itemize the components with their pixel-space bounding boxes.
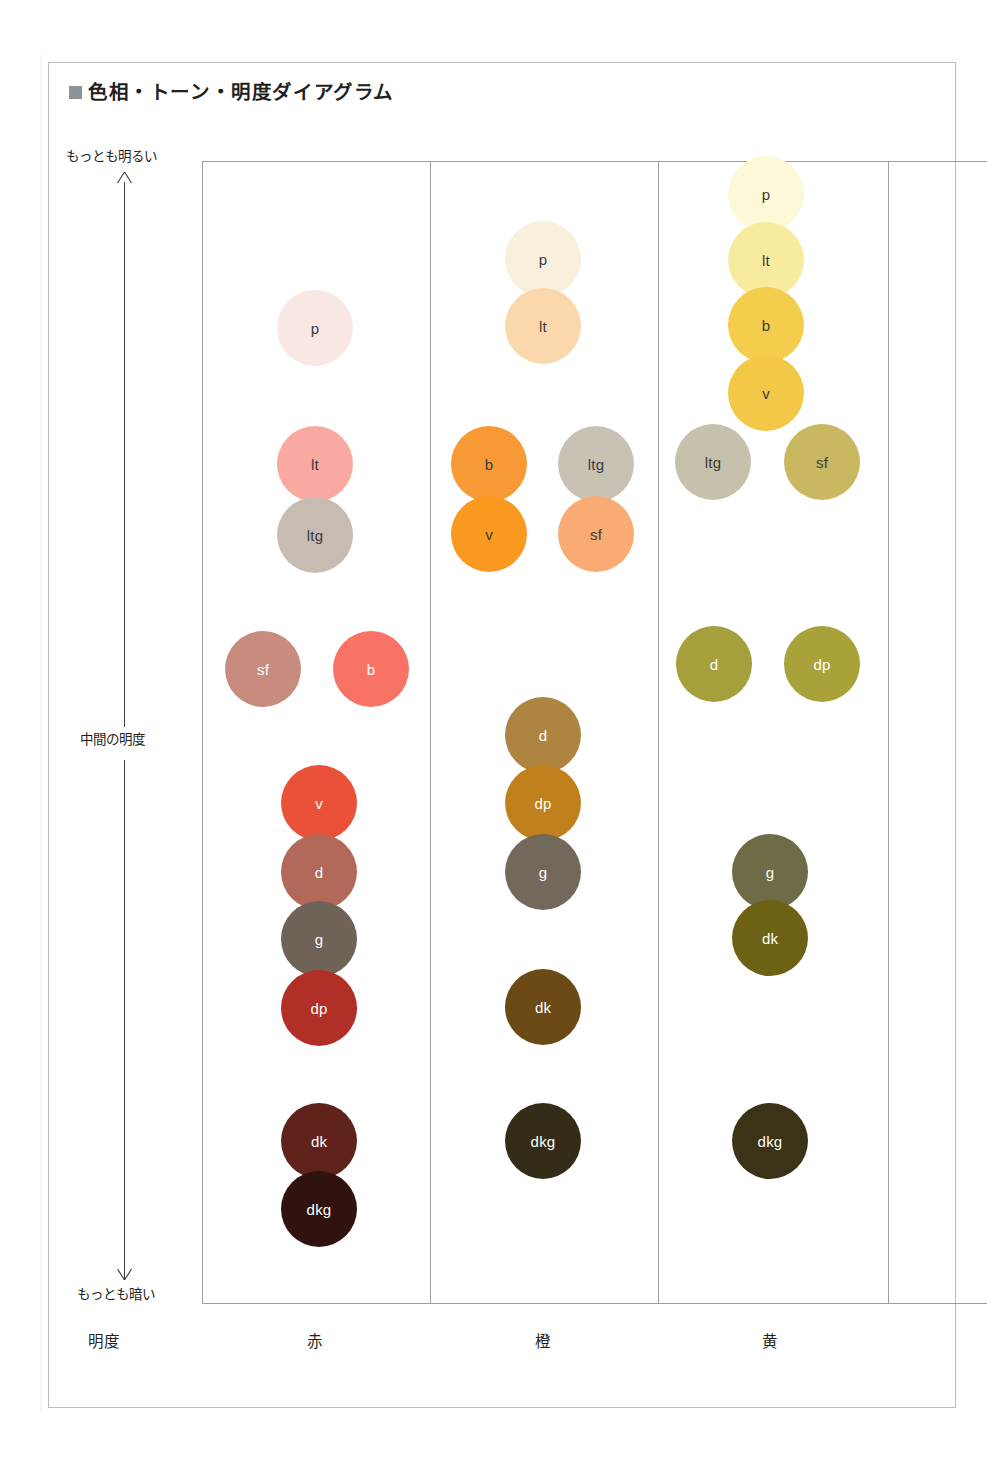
tone-dot-橙-sf: sf bbox=[558, 496, 634, 572]
tone-dot-黄-dk: dk bbox=[732, 900, 808, 976]
tone-dot-橙-d: d bbox=[505, 697, 581, 773]
tone-dot-黄-v: v bbox=[728, 355, 804, 431]
tone-dot-label: p bbox=[539, 251, 548, 266]
tone-dot-黄-g: g bbox=[732, 834, 808, 910]
tone-dot-黄-sf: sf bbox=[784, 424, 860, 500]
tone-dot-赤-sf: sf bbox=[225, 631, 301, 707]
tone-dot-label: lt bbox=[311, 456, 319, 471]
tone-dot-黄-d: d bbox=[676, 626, 752, 702]
tone-dot-橙-p: p bbox=[505, 221, 581, 297]
tone-dot-label: b bbox=[762, 317, 771, 332]
tone-dot-label: p bbox=[762, 186, 771, 201]
arrow-down-icon bbox=[116, 1268, 133, 1280]
axis-label-darkest: もっとも暗い bbox=[77, 1288, 155, 1302]
tone-dot-label: sf bbox=[590, 526, 602, 541]
tone-dot-橙-v: v bbox=[451, 496, 527, 572]
tone-dot-赤-g: g bbox=[281, 901, 357, 977]
tone-dot-label: dk bbox=[535, 999, 551, 1014]
filled-square-icon bbox=[69, 86, 82, 99]
tone-dot-label: ltg bbox=[588, 456, 604, 471]
tone-dot-label: g bbox=[315, 931, 324, 946]
axis-label-brightest: もっとも明るい bbox=[66, 150, 157, 164]
tone-dot-label: lt bbox=[539, 318, 547, 333]
tone-dot-label: lt bbox=[762, 252, 770, 267]
tone-dot-label: dkg bbox=[531, 1133, 556, 1148]
hue-column-label-橙: 橙 bbox=[503, 1334, 583, 1350]
tone-dot-黄-b: b bbox=[728, 287, 804, 363]
page-title-text: 色相・トーン・明度ダイアグラム bbox=[88, 83, 394, 103]
tone-dot-label: dkg bbox=[758, 1133, 783, 1148]
tone-dot-黄-dp: dp bbox=[784, 626, 860, 702]
tone-dot-label: d bbox=[315, 864, 324, 879]
tone-dot-橙-dk: dk bbox=[505, 969, 581, 1045]
tone-dot-label: dp bbox=[813, 656, 830, 671]
tone-dot-label: v bbox=[762, 385, 770, 400]
tone-dot-赤-b: b bbox=[333, 631, 409, 707]
tone-dot-label: dkg bbox=[307, 1201, 332, 1216]
tone-dot-label: dk bbox=[762, 930, 778, 945]
tone-dot-label: dk bbox=[311, 1133, 327, 1148]
axis-line-upper bbox=[124, 182, 125, 727]
page-title: 色相・トーン・明度ダイアグラム bbox=[69, 83, 394, 103]
column-divider-2 bbox=[658, 161, 659, 1304]
tone-dot-label: sf bbox=[816, 454, 828, 469]
tone-dot-赤-ltg: ltg bbox=[277, 497, 353, 573]
tone-dot-黄-ltg: ltg bbox=[675, 424, 751, 500]
tone-dot-赤-lt: lt bbox=[277, 426, 353, 502]
tone-dot-赤-p: p bbox=[277, 290, 353, 366]
tone-dot-label: g bbox=[539, 864, 548, 879]
tone-dot-赤-d: d bbox=[281, 834, 357, 910]
tone-dot-橙-dkg: dkg bbox=[505, 1103, 581, 1179]
tone-dot-橙-dp: dp bbox=[505, 765, 581, 841]
tone-dot-橙-g: g bbox=[505, 834, 581, 910]
axis-label-middle: 中間の明度 bbox=[80, 733, 145, 747]
tone-dot-label: dp bbox=[310, 1000, 327, 1015]
tone-dot-label: b bbox=[367, 661, 376, 676]
tone-dot-label: v bbox=[485, 526, 493, 541]
tone-dot-label: v bbox=[315, 795, 323, 810]
tone-dot-赤-dkg: dkg bbox=[281, 1171, 357, 1247]
tone-dot-label: g bbox=[766, 864, 775, 879]
tone-dot-label: b bbox=[485, 456, 494, 471]
tone-dot-label: p bbox=[311, 320, 320, 335]
tone-dot-赤-dp: dp bbox=[281, 970, 357, 1046]
tone-dot-label: ltg bbox=[705, 454, 721, 469]
tone-dot-label: d bbox=[710, 656, 719, 671]
tone-dot-label: d bbox=[539, 727, 548, 742]
tone-dot-label: ltg bbox=[307, 527, 323, 542]
tone-dot-橙-ltg: ltg bbox=[558, 426, 634, 502]
tone-dot-橙-lt: lt bbox=[505, 288, 581, 364]
hue-column-label-赤: 赤 bbox=[275, 1334, 355, 1350]
tone-dot-label: dp bbox=[534, 795, 551, 810]
tone-dot-黄-dkg: dkg bbox=[732, 1103, 808, 1179]
column-divider-1 bbox=[430, 161, 431, 1304]
tone-dot-赤-dk: dk bbox=[281, 1103, 357, 1179]
axis-title-lightness: 明度 bbox=[88, 1334, 120, 1350]
tone-dot-橙-b: b bbox=[451, 426, 527, 502]
hue-column-label-黄: 黄 bbox=[730, 1334, 810, 1350]
tone-dot-label: sf bbox=[257, 661, 269, 676]
axis-line-lower bbox=[124, 760, 125, 1280]
tone-dot-赤-v: v bbox=[281, 765, 357, 841]
scan-edge bbox=[40, 55, 43, 1413]
column-divider-3 bbox=[888, 161, 889, 1304]
tone-dot-黄-p: p bbox=[728, 156, 804, 232]
